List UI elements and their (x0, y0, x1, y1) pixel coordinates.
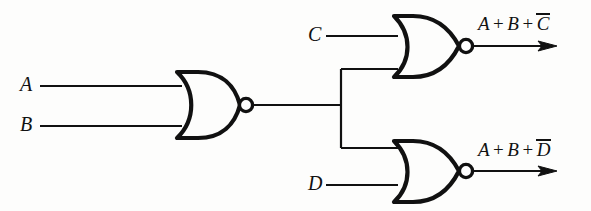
logic-circuit-figure: A B C D A+B+C A+B+D (0, 0, 591, 211)
output-bottom-term-2: B (507, 139, 519, 160)
output-expression-top: A+B+C (478, 13, 550, 33)
input-label-a: A (20, 74, 32, 94)
nor-gate-ab-bubble (239, 98, 252, 111)
output-expression-bottom: A+B+D (478, 139, 551, 159)
nor-gate-c-bubble (459, 39, 472, 52)
input-label-d: D (308, 173, 322, 193)
nor-gate-d-body (394, 141, 459, 202)
output-bottom-plus-2: + (519, 139, 536, 160)
input-label-b: B (20, 114, 32, 134)
nor-gate-c-body (394, 16, 459, 77)
output-bottom-plus-1: + (490, 139, 507, 160)
nor-gate-ab-body (177, 72, 240, 138)
output-top-term-1: A (478, 13, 490, 34)
output-bottom-term-1: A (478, 139, 490, 160)
output-top-term-3-overlined: C (537, 13, 550, 33)
output-top-term-2: B (507, 13, 519, 34)
output-top-plus-2: + (519, 13, 536, 34)
nor-gate-d-bubble (459, 164, 472, 177)
output-bottom-term-3-overlined: D (537, 139, 551, 159)
output-top-plus-1: + (490, 13, 507, 34)
input-label-c: C (308, 24, 321, 44)
